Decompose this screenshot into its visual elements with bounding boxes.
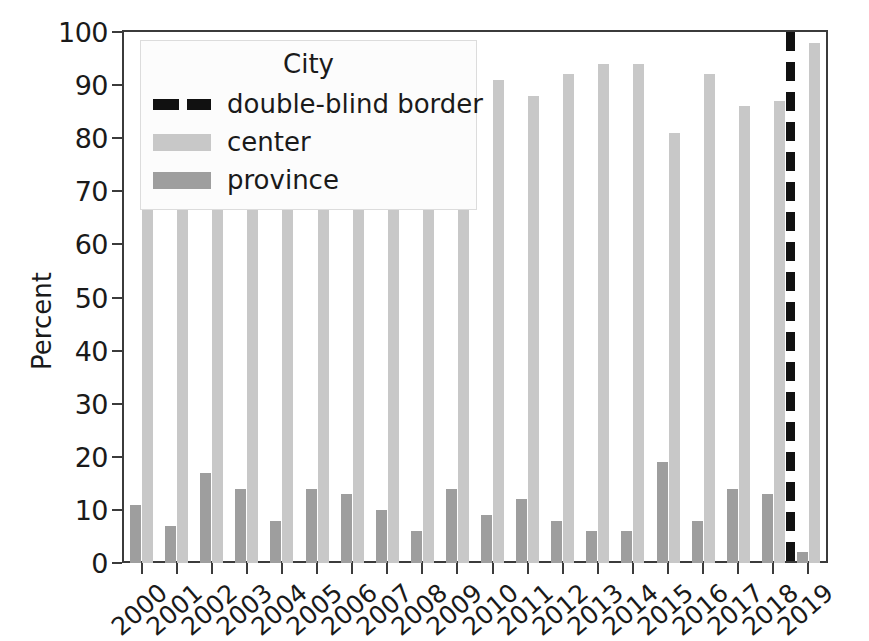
legend-entry-double-blind-border: double-blind border [153,85,464,123]
x-tick-mark-2017 [737,563,739,574]
legend-label-double-blind-border: double-blind border [227,89,483,119]
x-tick-mark-2015 [667,563,669,574]
x-tick-mark-2008 [421,563,423,574]
legend-title: City [153,49,464,79]
bar-center-2017 [739,106,750,563]
bar-center-2011 [528,96,539,563]
x-tick-mark-2006 [351,563,353,574]
x-tick-mark-2010 [492,563,494,574]
bar-province-2000 [130,505,141,563]
y-axis-label: Percent [27,221,57,421]
bar-province-2006 [341,494,352,563]
bar-chart-figure: 0102030405060708090100 Percent 200020012… [0,0,869,641]
legend-entries: double-blind bordercenterprovince [153,85,464,199]
bar-center-2012 [563,74,574,563]
bar-province-2005 [306,489,317,563]
y-tick-label-90: 90 [0,72,108,99]
x-tick-mark-2001 [176,563,178,574]
y-tick-mark-100 [112,31,122,33]
y-tick-mark-90 [112,84,122,86]
x-tick-mark-2019 [807,563,809,574]
bar-province-2010 [481,515,492,563]
y-tick-label-80: 80 [0,125,108,152]
x-tick-mark-2011 [527,563,529,574]
bar-center-2010 [493,80,504,563]
bar-center-2019 [809,43,820,563]
legend-swatch-province [153,172,211,189]
bar-center-2014 [633,64,644,563]
legend-entry-province: province [153,161,464,199]
bar-province-2009 [446,489,457,563]
y-tick-mark-70 [112,190,122,192]
y-tick-label-0: 0 [0,550,108,577]
x-tick-mark-2018 [772,563,774,574]
bar-province-2015 [657,462,668,563]
x-tick-mark-2009 [456,563,458,574]
bar-center-2013 [598,64,609,563]
x-tick-mark-2014 [632,563,634,574]
y-tick-mark-40 [112,350,122,352]
y-tick-label-10: 10 [0,496,108,523]
bar-province-2001 [165,526,176,563]
legend-swatch-center [153,134,211,151]
y-tick-mark-10 [112,509,122,511]
bar-province-2013 [586,531,597,563]
x-tick-mark-2003 [246,563,248,574]
y-tick-mark-60 [112,243,122,245]
bar-center-2016 [704,74,715,563]
bar-province-2007 [376,510,387,563]
bar-province-2019 [797,552,808,563]
bar-province-2012 [551,521,562,563]
y-tick-mark-0 [112,562,122,564]
bar-province-2018 [762,494,773,563]
legend-label-center: center [227,127,311,157]
bar-province-2003 [235,489,246,563]
y-tick-mark-30 [112,403,122,405]
chart-legend: City double-blind bordercenterprovince [140,40,477,210]
bar-province-2017 [727,489,738,563]
double-blind-border-line [786,32,795,563]
bar-center-2018 [774,101,785,563]
x-tick-mark-2013 [597,563,599,574]
y-tick-mark-20 [112,456,122,458]
y-tick-label-20: 20 [0,443,108,470]
legend-swatch-double-blind-border [153,99,211,110]
x-tick-mark-2012 [562,563,564,574]
y-tick-mark-50 [112,297,122,299]
legend-label-province: province [227,165,339,195]
bar-province-2008 [411,531,422,563]
bar-center-2015 [669,133,680,563]
bar-province-2004 [270,521,281,563]
legend-entry-center: center [153,123,464,161]
y-tick-label-100: 100 [0,19,108,46]
x-tick-mark-2005 [316,563,318,574]
x-tick-mark-2007 [386,563,388,574]
bar-province-2016 [692,521,703,563]
bar-province-2014 [621,531,632,563]
x-tick-mark-2004 [281,563,283,574]
bar-province-2011 [516,499,527,563]
x-tick-mark-2000 [141,563,143,574]
x-tick-mark-2002 [211,563,213,574]
y-tick-label-70: 70 [0,178,108,205]
y-tick-mark-80 [112,137,122,139]
bar-province-2002 [200,473,211,563]
x-tick-mark-2016 [702,563,704,574]
